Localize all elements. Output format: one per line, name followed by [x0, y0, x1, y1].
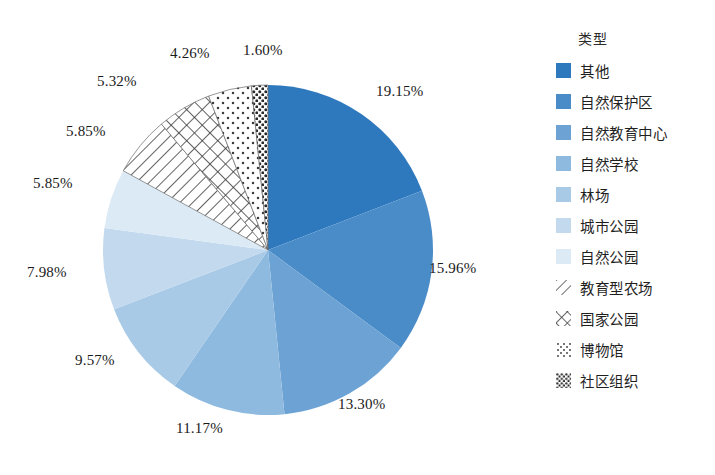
legend-swatch-icon: [556, 373, 571, 388]
pie-percentage-label: 13.30%: [338, 396, 385, 413]
legend-title: 类型: [578, 28, 706, 48]
legend-swatch-icon: [556, 249, 571, 264]
legend-item[interactable]: 国家公园: [556, 303, 706, 334]
legend-item[interactable]: 自然学校: [556, 148, 706, 179]
pie-percentage-label: 15.96%: [429, 260, 476, 277]
legend-item[interactable]: 社区组织: [556, 365, 706, 396]
pie-percentage-label: 5.32%: [97, 73, 137, 90]
legend-swatch-icon: [556, 94, 571, 109]
legend-item-label: 自然教育中心: [580, 122, 667, 143]
legend-item-label: 其他: [580, 60, 609, 81]
legend-swatch-icon: [556, 311, 571, 326]
legend-item-label: 自然学校: [580, 153, 638, 174]
pie-percentage-label: 5.85%: [66, 123, 106, 140]
pie-percentage-label: 1.60%: [243, 42, 283, 59]
legend-swatch-icon: [556, 280, 571, 295]
legend-swatch-icon: [556, 156, 571, 171]
pie-percentage-label: 4.26%: [170, 45, 210, 62]
legend-swatch-icon: [556, 187, 571, 202]
legend-item-label: 自然保护区: [580, 91, 653, 112]
chart-canvas: 19.15%15.96%13.30%11.17%9.57%7.98%5.85%5…: [0, 0, 715, 475]
legend-item[interactable]: 博物馆: [556, 334, 706, 365]
legend-item[interactable]: 城市公园: [556, 210, 706, 241]
pie-percentage-label: 9.57%: [75, 352, 115, 369]
legend-item[interactable]: 自然保护区: [556, 86, 706, 117]
legend-item-label: 社区组织: [580, 370, 638, 391]
legend-item-label: 博物馆: [580, 339, 624, 360]
pie-percentage-label: 19.15%: [376, 83, 423, 100]
legend-swatch-icon: [556, 218, 571, 233]
legend-swatch-icon: [556, 63, 571, 78]
legend-item[interactable]: 林场: [556, 179, 706, 210]
legend-swatch-icon: [556, 342, 571, 357]
legend-item-label: 城市公园: [580, 215, 638, 236]
pie-percentage-label: 11.17%: [176, 420, 223, 437]
legend-item[interactable]: 教育型农场: [556, 272, 706, 303]
legend-item-label: 林场: [580, 184, 609, 205]
legend-item-label: 国家公园: [580, 308, 638, 329]
legend-item[interactable]: 其他: [556, 55, 706, 86]
legend-item-label: 自然公园: [580, 246, 638, 267]
legend: 类型 其他自然保护区自然教育中心自然学校林场城市公园自然公园教育型农场国家公园博…: [556, 28, 706, 396]
legend-item-label: 教育型农场: [580, 277, 653, 298]
legend-item[interactable]: 自然教育中心: [556, 117, 706, 148]
pie-slice-group: [103, 85, 433, 415]
pie-percentage-label: 5.85%: [33, 175, 73, 192]
legend-item[interactable]: 自然公园: [556, 241, 706, 272]
legend-swatch-icon: [556, 125, 571, 140]
pie-percentage-label: 7.98%: [27, 264, 67, 281]
legend-item-list: 其他自然保护区自然教育中心自然学校林场城市公园自然公园教育型农场国家公园博物馆社…: [556, 55, 706, 396]
